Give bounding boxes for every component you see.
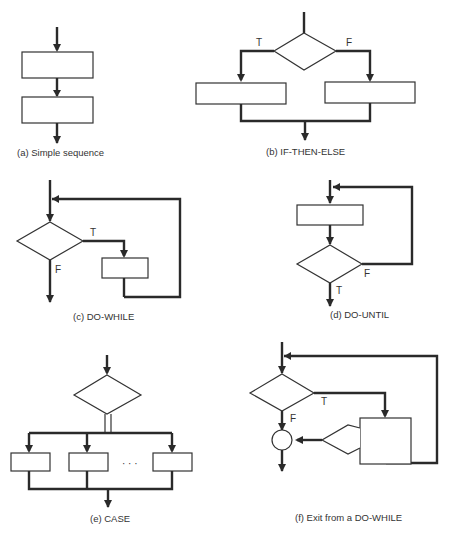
label-true: T (336, 285, 342, 296)
panel-e-case: · · · (e) CASE (11, 355, 192, 524)
caption-f: (f) Exit from a DO-WHILE (295, 512, 402, 523)
caption-d: (d) DO-UNTIL (330, 309, 389, 320)
then-box (196, 83, 286, 104)
case-box (153, 453, 192, 471)
caption-c: (c) DO-WHILE (73, 311, 134, 322)
label-false: F (364, 268, 370, 279)
process-box (22, 97, 93, 123)
label-false: F (346, 37, 352, 48)
loop-body-box (297, 205, 363, 225)
caption-a: (a) Simple sequence (17, 147, 104, 158)
decision-diamond (250, 374, 314, 411)
caption-e: (e) CASE (90, 513, 130, 524)
loop-body-box (360, 418, 411, 464)
label-false: F (290, 413, 296, 424)
ellipsis: · · · (122, 458, 138, 469)
panel-f-exit-do-while: T F (f) Exit from a DO-WHILE (250, 342, 437, 523)
loop-body-box (102, 258, 148, 278)
decision-diamond (274, 33, 336, 70)
label-true: T (256, 37, 262, 48)
case-box (11, 453, 50, 471)
label-true: T (90, 227, 96, 238)
decision-diamond (74, 375, 141, 414)
panel-c-do-while: T F (c) DO-WHILE (17, 180, 180, 322)
label-true: T (321, 396, 327, 407)
else-box (325, 82, 415, 103)
flowchart-figure: (a) Simple sequence T F (b) IF-THEN-ELSE… (0, 0, 457, 538)
panel-a-simple-sequence: (a) Simple sequence (17, 27, 104, 158)
caption-b: (b) IF-THEN-ELSE (266, 146, 345, 157)
decision-diamond (297, 245, 362, 283)
panel-b-if-then-else: T F (b) IF-THEN-ELSE (196, 12, 415, 157)
panel-d-do-until: F T (d) DO-UNTIL (297, 180, 412, 320)
process-box (22, 52, 93, 78)
decision-diamond (17, 222, 83, 260)
case-box (69, 453, 108, 471)
connector-circle (272, 430, 292, 450)
label-false: F (55, 264, 61, 275)
